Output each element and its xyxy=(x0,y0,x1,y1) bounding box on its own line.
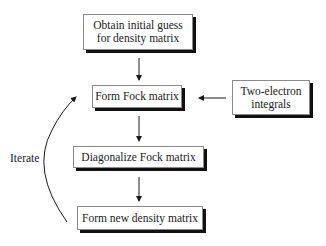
node-two-electron-integrals: Two-electron integrals xyxy=(232,80,310,115)
node-text-line: Diagonalize Fock matrix xyxy=(81,151,195,164)
node-form-fock-matrix: Form Fock matrix xyxy=(92,85,182,108)
node-text-line: integrals xyxy=(251,98,291,111)
node-obtain-initial-guess: Obtain initial guess for density matrix xyxy=(83,14,193,50)
node-text-line: for density matrix xyxy=(97,32,179,45)
node-text-line: Two-electron xyxy=(240,85,301,98)
iterate-label: Iterate xyxy=(10,152,39,164)
node-text-line: Form Fock matrix xyxy=(95,90,179,103)
node-form-new-density-matrix: Form new density matrix xyxy=(77,206,203,230)
node-diagonalize-fock-matrix: Diagonalize Fock matrix xyxy=(73,146,204,168)
arrow-iterate-loop xyxy=(44,97,76,222)
node-text-line: Form new density matrix xyxy=(82,212,198,225)
node-text-line: Obtain initial guess xyxy=(93,19,182,32)
